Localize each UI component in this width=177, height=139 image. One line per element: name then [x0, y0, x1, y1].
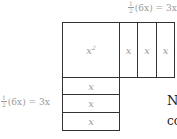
x-squared-square: x2	[62, 22, 120, 78]
strip-label: x	[88, 116, 94, 127]
strip-label: x	[88, 81, 94, 92]
bottom-strip-1: x	[62, 77, 120, 95]
top-label: 12 (6x) = 3x	[128, 1, 177, 14]
right-strip-2: x	[137, 22, 157, 78]
top-label-expression: (6x) = 3x	[135, 3, 177, 13]
fraction-half: 12	[128, 1, 134, 14]
fraction-denominator: 2	[2, 102, 6, 108]
right-strip-1: x	[119, 22, 138, 78]
right-strip-3: x	[156, 22, 175, 78]
strip-label: x	[144, 45, 150, 56]
fraction-denominator: 2	[129, 8, 133, 14]
left-label: 12 (6x) = 3x	[1, 95, 50, 108]
fraction-half: 12	[1, 95, 7, 108]
bottom-strip-2: x	[62, 94, 120, 113]
left-label-expression: (6x) = 3x	[8, 97, 50, 107]
strip-label: x	[88, 98, 94, 109]
square-label: x2	[86, 44, 95, 56]
strip-label: x	[126, 45, 132, 56]
partial-text-line-1: N	[167, 93, 177, 108]
bottom-strip-3: x	[62, 112, 120, 131]
square-exponent: 2	[92, 44, 96, 51]
strip-label: x	[163, 45, 169, 56]
partial-text-line-2: co	[167, 114, 177, 128]
